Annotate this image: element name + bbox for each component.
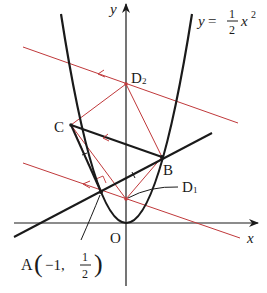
label-a-open-paren: ( (34, 249, 43, 278)
point-c (69, 123, 73, 127)
label-a-x: −1, (45, 257, 65, 273)
equation-exponent: 2 (251, 9, 256, 20)
point-d2 (124, 82, 128, 86)
equation-label: y = 1 2 x 2 (196, 7, 256, 37)
point-d1 (124, 197, 128, 201)
origin-label: O (110, 230, 121, 246)
label-b: B (163, 162, 173, 178)
label-d1-sub: 1 (193, 185, 198, 195)
label-a-close-paren: ) (94, 249, 103, 278)
label-a-main: A (21, 256, 33, 273)
label-d1-main: D (182, 179, 193, 195)
label-d2-sub: 2 (142, 76, 147, 86)
equation-frac-den: 2 (229, 23, 235, 37)
parabola-diagram: y x O y = 1 2 x 2 D 2 C B D 1 A ( −1, 1 … (0, 0, 267, 293)
label-d2: D 2 (131, 70, 147, 86)
x-axis-label: x (246, 230, 254, 246)
equation-var: x (240, 13, 248, 29)
label-d1: D 1 (182, 179, 198, 195)
equation-frac-num: 1 (229, 7, 235, 21)
label-a: A ( −1, 1 2 ) (21, 249, 103, 281)
label-c: C (54, 119, 64, 135)
label-d2-main: D (131, 70, 142, 86)
point-b (160, 155, 164, 159)
y-axis-label: y (108, 1, 117, 17)
leader-a (81, 195, 100, 240)
label-a-frac-den: 2 (82, 267, 88, 281)
label-a-frac-num: 1 (82, 250, 88, 264)
equation-lhs: y (196, 13, 205, 29)
equation-equals: = (208, 13, 216, 29)
point-a (99, 190, 103, 194)
